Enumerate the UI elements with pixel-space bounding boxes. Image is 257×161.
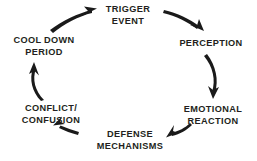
node-cool-down-period: COOL DOWN PERIOD: [2, 35, 86, 58]
cycle-diagram: TRIGGER EVENT PERCEPTION EMOTIONAL REACT…: [0, 0, 257, 161]
arrow-trigger-to-perception-icon: [163, 10, 204, 31]
node-conflict-confusion: CONFLICT/ CONFUSION: [6, 103, 96, 126]
node-perception: PERCEPTION: [168, 38, 254, 50]
node-emotional-reaction: EMOTIONAL REACTION: [170, 104, 256, 127]
node-defense-mechanisms: DEFENSE MECHANISMS: [84, 129, 176, 152]
node-trigger-event: TRIGGER EVENT: [88, 4, 168, 27]
arrow-perception-to-emotional-icon: [204, 54, 219, 99]
arrow-conflict-to-cool-down-icon: [29, 62, 44, 101]
